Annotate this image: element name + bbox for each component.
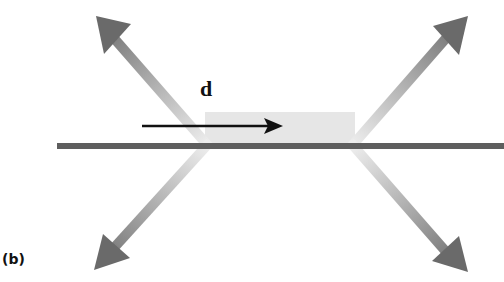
force-arrow-upper-left <box>96 16 210 148</box>
block <box>205 112 355 145</box>
force-arrow-lower-left <box>94 142 210 270</box>
diagram-figure: d (b) <box>0 0 504 282</box>
diagram-canvas <box>0 0 504 282</box>
panel-label: (b) <box>2 252 25 266</box>
displacement-label: d <box>200 78 212 100</box>
force-arrow-lower-right <box>350 142 468 272</box>
force-arrow-upper-right <box>350 16 468 148</box>
surface-line <box>57 143 504 149</box>
